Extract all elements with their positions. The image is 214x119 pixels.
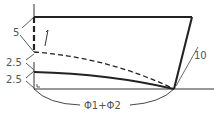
corner-mark xyxy=(37,84,40,87)
leader-2.5-low-b xyxy=(26,81,34,88)
label-2.5-upper: 2.5 xyxy=(6,57,22,68)
leader-5-top xyxy=(22,17,34,28)
solid-curve xyxy=(34,72,174,89)
label-5: 5 xyxy=(13,27,19,38)
label-angle: Φ1+Φ2 xyxy=(84,100,121,111)
leader-2.5-top xyxy=(26,54,34,60)
leader-2.5-mid xyxy=(26,63,34,70)
deflection-arrow-icon xyxy=(45,30,48,46)
angle-arc-right xyxy=(130,89,174,105)
label-10: 10 xyxy=(194,50,207,61)
dashed-curve xyxy=(34,52,174,89)
label-2.5-lower: 2.5 xyxy=(6,74,22,85)
right-slant-line xyxy=(174,17,192,89)
angle-arc xyxy=(34,89,80,105)
leader-5-bottom xyxy=(20,35,34,52)
diagram-canvas: 5 2.5 2.5 10 Φ1+Φ2 xyxy=(0,0,214,119)
leader-2.5-low-a xyxy=(26,71,34,78)
